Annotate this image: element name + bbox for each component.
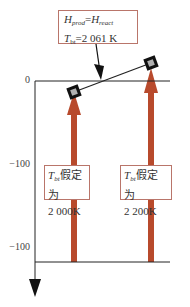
marker-2000k bbox=[66, 84, 81, 99]
marker-2200k bbox=[143, 55, 158, 70]
callout-line-enthalpy: Hprod=Hreact bbox=[64, 12, 132, 31]
callout-line-temperature: Tbt=2 061 K bbox=[64, 31, 132, 50]
tick-label-0: 0 bbox=[0, 74, 30, 85]
y-axis-arrow-icon bbox=[29, 279, 41, 297]
connecting-line bbox=[74, 63, 151, 92]
assumption-box-2200k: Tbt假定为 2 200K bbox=[120, 165, 172, 200]
callout-arrow-icon bbox=[94, 64, 104, 80]
tick-label-minus-100-b: −100 bbox=[0, 241, 30, 252]
assumption-box-2000k: Tbt假定为 2 000K bbox=[44, 165, 90, 200]
callout-box: Hprod=Hreact Tbt=2 061 K bbox=[58, 10, 138, 44]
tick-label-minus-100-a: −100 bbox=[0, 158, 30, 169]
